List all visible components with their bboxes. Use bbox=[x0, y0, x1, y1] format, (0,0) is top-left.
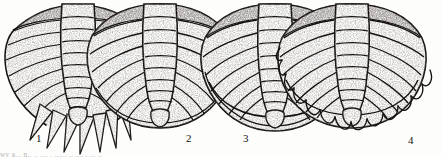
illustration-canvas bbox=[0, 0, 442, 157]
specimen-label-2: 2 bbox=[186, 133, 192, 144]
specimen-label-3: 3 bbox=[243, 133, 249, 144]
specimen-label-1: 1 bbox=[36, 133, 42, 144]
figure-plate: 1 2 3 4 wy a... n.. .. .... . ...... .. … bbox=[0, 0, 442, 157]
specimen-label-4: 4 bbox=[408, 135, 414, 146]
caption-sliver: wy a... n.. .. .... . ...... .. .... . .… bbox=[0, 150, 442, 157]
